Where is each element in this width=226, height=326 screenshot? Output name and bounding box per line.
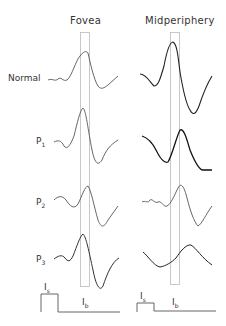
waveform-figure: [0, 0, 226, 326]
stimulus-trace-fovea: [41, 294, 120, 312]
midperiphery-time-window: [171, 33, 180, 285]
trace-fovea-p2: [54, 186, 118, 226]
trace-midperiphery-normal: [140, 42, 212, 113]
trace-midperiphery-p3: [143, 245, 212, 267]
stimulus-label-midperiphery-ib: Ib: [172, 297, 178, 309]
stimulus-label-fovea-is: Is: [44, 282, 50, 294]
stimulus-label-fovea-ib: Ib: [82, 297, 88, 309]
trace-fovea-p3: [54, 234, 119, 288]
trace-fovea-p1: [54, 108, 118, 163]
trace-fovea-normal: [48, 52, 118, 89]
trace-midperiphery-p1: [142, 130, 212, 170]
stimulus-label-midperiphery-is: Is: [140, 291, 146, 303]
trace-midperiphery-p2: [142, 185, 212, 226]
